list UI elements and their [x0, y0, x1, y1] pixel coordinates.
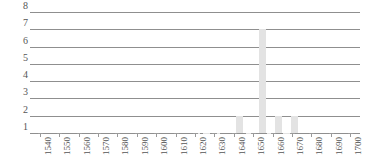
- x-axis-tick-label: 1600: [160, 137, 169, 155]
- x-axis-tick-label: 1640: [238, 137, 247, 155]
- x-axis-tick-cap: [193, 133, 198, 134]
- x-axis-tick-label: 1550: [63, 137, 72, 155]
- x-axis-tick-cap: [348, 133, 353, 134]
- gridline: [30, 47, 360, 48]
- bar-chart: 1234567815401550156015701580159016001610…: [0, 0, 368, 167]
- x-axis-tick-label: 1540: [44, 137, 53, 155]
- x-axis-tick-label: 1670: [296, 137, 305, 155]
- x-axis-tick-label: 1650: [257, 137, 266, 155]
- gridline: [30, 12, 360, 13]
- x-axis-tick-cap: [57, 133, 62, 134]
- x-axis-tick-cap: [251, 133, 256, 134]
- x-axis-tick-cap: [96, 133, 101, 134]
- x-axis-tick-cap: [271, 133, 276, 134]
- x-axis-tick-cap: [290, 133, 295, 134]
- plot-area: [30, 12, 360, 133]
- x-axis-tick-cap: [135, 133, 140, 134]
- gridline: [30, 64, 360, 65]
- x-axis-tick-cap: [232, 133, 237, 134]
- y-axis-tick-label: 2: [6, 105, 28, 115]
- gridline: [30, 98, 360, 99]
- gridline: [30, 29, 360, 30]
- x-axis-tick-label: 1700: [354, 137, 363, 155]
- x-axis-tick-label: 1590: [141, 137, 150, 155]
- gridline: [30, 116, 360, 117]
- x-axis-tick-label: 1620: [199, 137, 208, 155]
- y-axis-tick-label: 3: [6, 87, 28, 97]
- y-axis-tick-label: 5: [6, 53, 28, 63]
- y-axis-tick-label: 8: [6, 1, 28, 11]
- x-axis-tick-cap: [38, 133, 43, 134]
- x-axis-tick-cap: [174, 133, 179, 134]
- x-axis-tick-label: 1560: [83, 137, 92, 155]
- x-axis-tick-cap: [212, 133, 217, 134]
- bar: [283, 133, 290, 134]
- bar: [236, 116, 243, 133]
- y-axis-tick-label: 7: [6, 18, 28, 28]
- bar: [275, 116, 282, 133]
- x-axis-tick-cap: [154, 133, 159, 134]
- y-axis-tick-label: 1: [6, 122, 28, 132]
- y-axis-tick-label: 6: [6, 36, 28, 46]
- x-axis-tick-label: 1630: [218, 137, 227, 155]
- x-axis-tick-cap: [115, 133, 120, 134]
- gridline: [30, 81, 360, 82]
- x-axis-tick-label: 1610: [180, 137, 189, 155]
- x-axis-tick-cap: [329, 133, 334, 134]
- x-axis-tick-label: 1680: [315, 137, 324, 155]
- x-axis-tick-cap: [77, 133, 82, 134]
- x-axis-tick-label: 1580: [121, 137, 130, 155]
- bar: [291, 116, 298, 133]
- x-axis-tick-label: 1570: [102, 137, 111, 155]
- x-axis-tick-cap: [309, 133, 314, 134]
- x-axis-tick-label: 1690: [335, 137, 344, 155]
- bar: [259, 29, 266, 133]
- x-axis-tick-label: 1660: [277, 137, 286, 155]
- bar: [203, 133, 210, 134]
- y-axis-tick-label: 4: [6, 70, 28, 80]
